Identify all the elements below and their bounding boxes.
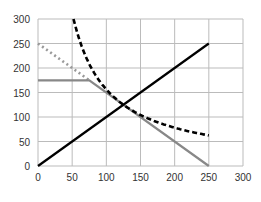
- x-tick-label: 250: [200, 172, 217, 183]
- y-tick-label: 0: [24, 161, 30, 172]
- y-axis-ticks: 050100150200250300: [13, 14, 30, 172]
- x-tick-label: 150: [132, 172, 149, 183]
- x-tick-label: 0: [35, 172, 41, 183]
- gray-dotted-line: [38, 44, 89, 81]
- y-tick-label: 150: [13, 88, 30, 99]
- y-tick-label: 250: [13, 39, 30, 50]
- line-chart: 050100150200250300 050100150200250300: [0, 0, 261, 202]
- y-tick-label: 200: [13, 63, 30, 74]
- y-tick-label: 50: [19, 137, 31, 148]
- gray-solid-line: [38, 80, 209, 166]
- x-tick-label: 100: [98, 172, 115, 183]
- x-tick-label: 300: [235, 172, 252, 183]
- y-tick-label: 100: [13, 112, 30, 123]
- x-tick-label: 200: [166, 172, 183, 183]
- x-axis-ticks: 050100150200250300: [35, 172, 252, 183]
- y-tick-label: 300: [13, 14, 30, 25]
- x-tick-label: 50: [67, 172, 79, 183]
